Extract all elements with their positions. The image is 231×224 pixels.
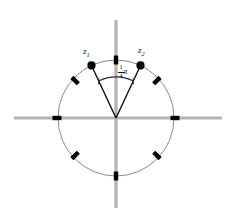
tick-mark-45deg: [154, 77, 160, 83]
point-z2[interactable]: [136, 61, 144, 69]
tick-mark-225deg: [72, 152, 78, 158]
angle-denominator: 4: [112, 73, 130, 81]
tick-mark-315deg: [154, 152, 160, 158]
angle-annotation: 1 4 π: [112, 64, 130, 80]
point-label-z1-subscript: 1: [87, 51, 90, 58]
point-label-z2: z2: [138, 46, 145, 57]
figure-container: z1 z2 1 4 π: [0, 0, 231, 224]
tick-mark-135deg: [72, 77, 78, 83]
pi-symbol: π: [124, 68, 128, 76]
angle-numerator: 1: [112, 64, 130, 72]
point-z1[interactable]: [87, 61, 95, 69]
unit-circle-diagram: [0, 0, 231, 224]
point-label-z1: z1: [83, 47, 90, 58]
point-label-z2-subscript: 2: [142, 50, 145, 57]
